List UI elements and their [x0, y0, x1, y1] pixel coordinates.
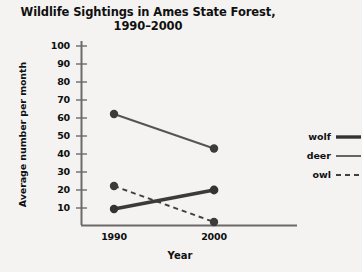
- chart-legend: wolf deer owl: [296, 127, 362, 184]
- thin-solid-line-icon: [335, 151, 362, 161]
- deer-line-segment: [114, 114, 214, 149]
- wolf-point-1990: [110, 205, 118, 213]
- series-owl: [110, 182, 218, 226]
- legend-label-owl: owl: [312, 169, 331, 180]
- legend-item-wolf: wolf: [296, 127, 362, 146]
- legend-item-owl: owl: [296, 165, 362, 184]
- legend-label-wolf: wolf: [308, 131, 331, 142]
- owl-point-1990: [110, 182, 118, 190]
- y-tick-label-70: 70: [36, 94, 70, 105]
- y-axis-title: Average number per month: [17, 50, 28, 220]
- chart-figure: Wildlife Sightings in Ames State Forest,…: [0, 0, 362, 272]
- deer-point-2000: [210, 144, 218, 152]
- y-tick-label-20: 20: [36, 184, 70, 195]
- y-tick-label-90: 90: [36, 58, 70, 69]
- y-tick-label-100: 100: [36, 40, 70, 51]
- legend-item-deer: deer: [296, 146, 362, 165]
- x-axis-title: Year: [60, 250, 300, 261]
- wolf-point-2000: [210, 186, 219, 195]
- deer-point-1990: [110, 110, 118, 118]
- dashed-line-icon: [335, 170, 362, 180]
- x-tick-label-2000: 2000: [184, 231, 244, 242]
- x-tick-label-1990: 1990: [84, 231, 144, 242]
- wolf-line-segment: [114, 190, 214, 209]
- legend-label-deer: deer: [307, 150, 331, 161]
- y-tick-label-80: 80: [36, 76, 70, 87]
- series-deer: [110, 110, 218, 153]
- thick-solid-line-icon: [335, 132, 362, 142]
- y-tick-label-50: 50: [36, 130, 70, 141]
- owl-point-2000: [210, 218, 218, 226]
- y-tick-label-40: 40: [36, 148, 70, 159]
- y-tick-label-10: 10: [36, 202, 70, 213]
- y-tick-label-30: 30: [36, 166, 70, 177]
- y-tick-label-60: 60: [36, 112, 70, 123]
